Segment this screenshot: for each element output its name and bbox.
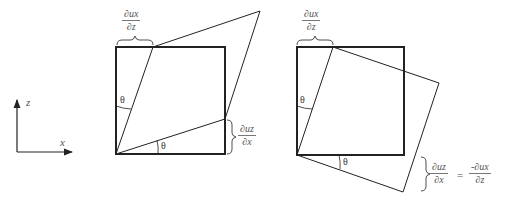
right-equation-rhs: -∂ux ∂z (469, 162, 491, 185)
left-top-fraction: ∂ux ∂z (122, 9, 140, 32)
right-equation-lhs: ∂uz ∂x (430, 162, 448, 185)
z-axis-label: z (26, 97, 30, 108)
right-top-fraction: ∂ux ∂z (302, 9, 320, 32)
left-right-fraction: ∂uz ∂x (238, 124, 256, 147)
right-theta-top: θ (300, 95, 305, 105)
right-theta-bottom: θ (343, 157, 348, 167)
left-theta-bottom: θ (161, 141, 166, 151)
equals-sign: = (457, 169, 463, 181)
left-theta-top: θ (120, 95, 125, 105)
right-rotation-diagram (297, 36, 439, 192)
x-axis-label: x (60, 137, 65, 148)
